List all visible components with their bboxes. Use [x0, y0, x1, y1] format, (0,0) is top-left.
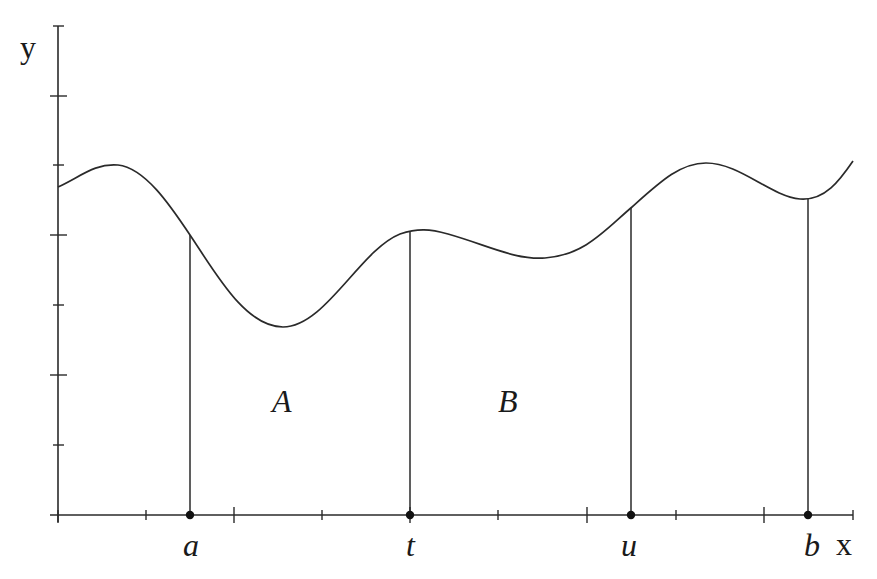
- label-b: b: [804, 527, 820, 563]
- point-u-dot: [627, 511, 635, 519]
- vertical-lines: [190, 199, 808, 515]
- x-axis-label: x: [836, 526, 852, 562]
- region-labels: A B: [270, 383, 518, 419]
- label-u: u: [621, 527, 637, 563]
- y-axis: y: [20, 26, 67, 522]
- label-t: t: [406, 527, 416, 563]
- y-axis-label: y: [20, 29, 36, 65]
- point-labels: a t u b: [183, 527, 820, 563]
- area-diagram: y x a t u b A B: [0, 0, 877, 579]
- x-axis: x: [50, 507, 853, 562]
- point-b-dot: [804, 511, 812, 519]
- label-a: a: [183, 527, 199, 563]
- region-b-label: B: [498, 383, 518, 419]
- point-a-dot: [186, 511, 194, 519]
- point-t-dot: [406, 511, 414, 519]
- function-curve: [58, 161, 853, 327]
- region-a-label: A: [270, 383, 292, 419]
